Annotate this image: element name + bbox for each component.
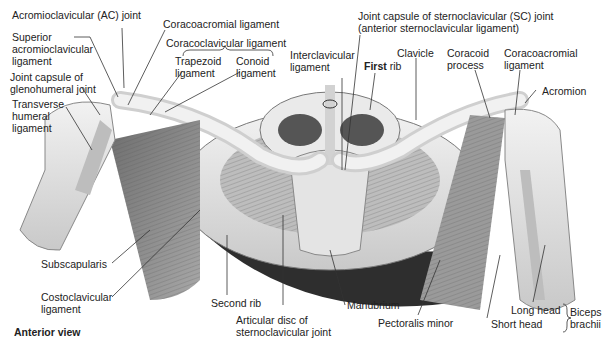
label-coracoclavicular: Coracoclavicular ligament <box>166 37 286 49</box>
label-first-rib: First rib <box>364 60 401 72</box>
label-transverse-humeral: Transverse humeral ligament <box>12 98 64 134</box>
label-articular-disc: Articular disc of sternoclavicular joint <box>236 314 331 338</box>
label-conoid: Conoid ligament <box>236 55 276 79</box>
label-acromion: Acromion <box>542 85 586 97</box>
label-coracoacromial-left: Coracoacromial ligament <box>163 18 279 30</box>
label-long-head: Long head <box>511 304 561 316</box>
label-ac-joint: Acromioclavicular (AC) joint <box>12 9 141 21</box>
label-glenohumeral-capsule: Joint capsule of glenohumeral joint <box>10 71 96 95</box>
label-subscapularis: Subscapularis <box>41 258 107 270</box>
label-trapezoid: Trapezoid ligament <box>175 55 221 79</box>
label-interclavicular: Interclavicular ligament <box>290 49 355 73</box>
label-second-rib: Second rib <box>211 297 261 309</box>
label-coracoacromial-right: Coracoacromial ligament <box>504 47 578 71</box>
label-superior-ac-ligament: Superior acromioclavicular ligament <box>12 31 93 67</box>
label-coracoid-process: Coracoid process <box>447 47 489 71</box>
label-biceps-brachii: Biceps brachii <box>570 306 602 330</box>
label-clavicle: Clavicle <box>397 47 434 59</box>
label-costoclavicular: Costoclavicular ligament <box>41 291 112 315</box>
label-sc-joint-capsule: Joint capsule of sternoclavicular (SC) j… <box>358 10 554 34</box>
anatomy-figure: Acromioclavicular (AC) joint Superior ac… <box>0 0 607 344</box>
label-pectoralis-minor: Pectoralis minor <box>378 317 453 329</box>
label-short-head: Short head <box>491 318 542 330</box>
figure-caption: Anterior view <box>14 326 81 338</box>
label-manubrium: Manubrium <box>347 299 400 311</box>
